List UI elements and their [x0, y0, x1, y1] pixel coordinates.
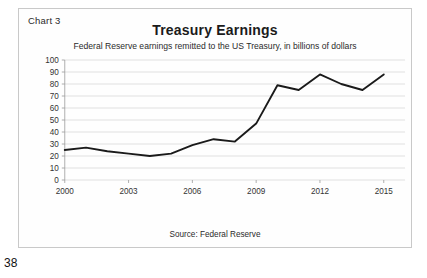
- x-tick-label: 2003: [120, 187, 139, 196]
- chart-title: Treasury Earnings: [19, 22, 411, 38]
- y-tick-label: 70: [50, 92, 60, 101]
- y-tick-label: 50: [50, 116, 60, 125]
- y-tick-label: 10: [50, 164, 60, 173]
- y-tick-label: 60: [50, 104, 60, 113]
- y-tick-label: 90: [50, 68, 60, 77]
- page-number: 38: [4, 256, 17, 270]
- plot-area: 0102030405060708090100 20002003200620092…: [19, 54, 411, 204]
- y-tick-label: 30: [50, 140, 60, 149]
- x-tick-label: 2009: [247, 187, 266, 196]
- y-tick-label: 40: [50, 128, 60, 137]
- x-tick-label: 2000: [56, 187, 75, 196]
- chart-figure: Chart 3 Treasury Earnings Federal Reserv…: [18, 8, 412, 248]
- x-tick-label: 2012: [311, 187, 330, 196]
- source-note: Source: Federal Reserve: [19, 230, 411, 239]
- x-tick-label: 2006: [183, 187, 202, 196]
- y-tick-label: 0: [54, 176, 59, 185]
- x-tick-label: 2015: [375, 187, 394, 196]
- y-tick-label: 100: [45, 56, 59, 65]
- y-tick-label: 80: [50, 80, 60, 89]
- y-axis-ticks-group: 0102030405060708090100: [45, 56, 65, 185]
- line-chart-svg: 0102030405060708090100 20002003200620092…: [19, 54, 411, 204]
- y-tick-label: 20: [50, 152, 60, 161]
- chart-subtitle: Federal Reserve earnings remitted to the…: [19, 41, 411, 51]
- gridlines-group: [65, 60, 405, 180]
- x-axis-ticks-group: 200020032006200920122015: [56, 180, 394, 196]
